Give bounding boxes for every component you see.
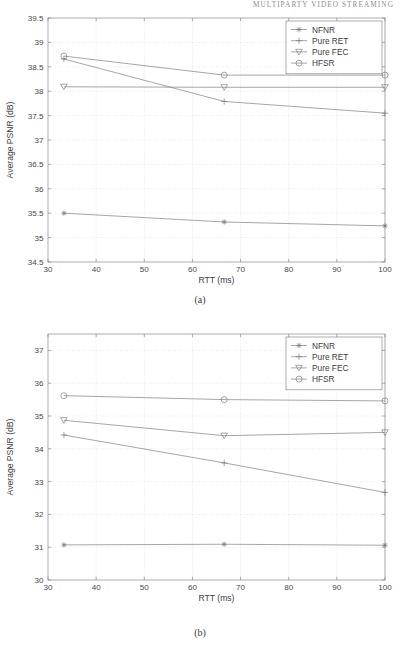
legend-item-label: Pure FEC (312, 47, 348, 57)
figure-b: 304050607080901003031323334353637RTT (ms… (0, 322, 400, 652)
legend-item-label: Pure RET (312, 36, 348, 46)
y-tick-label: 37 (34, 136, 44, 145)
x-tick-label: 80 (284, 583, 294, 592)
data-series-group (61, 53, 389, 229)
x-tick-label: 70 (236, 265, 246, 274)
y-tick-label: 32 (34, 510, 44, 519)
y-tick-label: 36.5 (28, 160, 44, 169)
x-tick-label: 30 (43, 583, 53, 592)
chart-b-canvas: 304050607080901003031323334353637RTT (ms… (0, 322, 400, 614)
y-tick-label: 38 (34, 87, 44, 96)
y-tick-label: 39 (34, 38, 44, 47)
y-tick-label: 38.5 (28, 63, 44, 72)
legend-item-label: Pure RET (312, 352, 348, 362)
legend-item-label: HFSR (312, 58, 335, 68)
x-tick-label: 60 (188, 265, 198, 274)
y-tick-label: 35 (34, 412, 44, 421)
y-tick-label: 37 (34, 346, 44, 355)
chart-legend: NFNRPure RETPure FECHFSR (286, 21, 382, 74)
x-axis-title: RTT (ms) (199, 275, 235, 285)
chart-a-canvas: 3040506070809010034.53535.53636.53737.53… (0, 8, 400, 296)
y-tick-label: 39.5 (28, 14, 44, 23)
x-tick-label: 50 (140, 265, 150, 274)
x-tick-label: 40 (92, 265, 102, 274)
y-axis-title: Average PSNR (dB) (5, 101, 15, 178)
y-tick-label: 33 (34, 478, 44, 487)
y-tick-label: 31 (34, 543, 44, 552)
x-tick-label: 50 (140, 583, 150, 592)
x-axis-title: RTT (ms) (199, 593, 235, 603)
data-series (61, 542, 388, 548)
x-tick-label: 100 (378, 583, 392, 592)
y-tick-label: 37.5 (28, 112, 44, 121)
legend-item-label: NFNR (312, 341, 335, 351)
figure-a: 3040506070809010034.53535.53636.53737.53… (0, 8, 400, 308)
y-tick-label: 36 (34, 185, 44, 194)
y-tick-label: 30 (34, 576, 44, 585)
data-series (61, 84, 389, 90)
y-axis-title: Average PSNR (dB) (5, 418, 15, 495)
chart-legend: NFNRPure RETPure FECHFSR (286, 337, 382, 390)
x-tick-label: 100 (378, 265, 392, 274)
data-series (61, 432, 389, 496)
legend-item-label: NFNR (312, 25, 335, 35)
x-tick-label: 40 (92, 583, 102, 592)
x-tick-label: 90 (332, 583, 342, 592)
y-tick-label: 34 (34, 445, 44, 454)
data-series (61, 393, 388, 404)
figure-page: MULTIPARTY VIDEO STREAMING 3040506070809… (0, 0, 400, 660)
y-tick-label: 35.5 (28, 209, 44, 218)
data-series (61, 418, 389, 439)
x-tick-label: 70 (236, 583, 246, 592)
x-tick-label: 80 (284, 265, 294, 274)
legend-item-label: Pure FEC (312, 363, 348, 373)
figure-b-caption: (b) (0, 627, 400, 638)
figure-a-caption: (a) (0, 294, 400, 305)
legend-item-label: HFSR (312, 374, 335, 384)
x-tick-label: 60 (188, 583, 198, 592)
x-tick-label: 30 (43, 265, 53, 274)
y-tick-label: 35 (34, 234, 44, 243)
y-tick-label: 36 (34, 379, 44, 388)
y-tick-label: 34.5 (28, 258, 44, 267)
x-tick-label: 90 (332, 265, 342, 274)
